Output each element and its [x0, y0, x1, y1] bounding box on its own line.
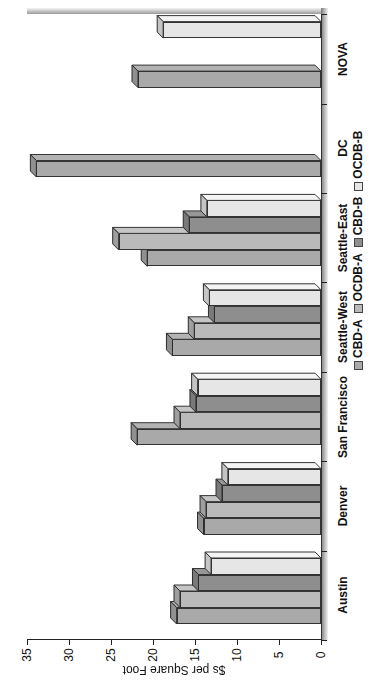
bar-ocdb-a-denver	[206, 502, 321, 519]
legend-item: CBD-A	[351, 319, 365, 370]
value-tick-label: 5	[272, 645, 286, 665]
category-label: DC	[335, 103, 351, 193]
bar-front-face	[119, 233, 321, 250]
bar-front-face	[207, 200, 321, 217]
bar-ocdb-b-austin	[211, 558, 321, 575]
value-tick-label: 30	[62, 645, 76, 665]
bar-cbd-a-nova	[138, 71, 321, 88]
category-label: NOVA	[335, 14, 351, 104]
bar-front-face	[228, 469, 321, 486]
bar-front-face	[196, 396, 321, 413]
value-tick-label: 35	[20, 645, 34, 665]
bar-ocdb-b-san-francisco	[198, 379, 321, 396]
legend-label: CBD-B	[351, 197, 365, 236]
legend-swatch-icon	[354, 238, 363, 247]
category-tick	[321, 104, 327, 105]
bar-front-face	[204, 518, 321, 535]
category-tick	[321, 372, 327, 373]
category-axis	[321, 14, 322, 641]
legend-label: OCDB-B	[351, 131, 365, 179]
category-label: Austin	[335, 550, 351, 640]
legend: CBD-AOCDB-ACBD-BOCDB-B	[350, 170, 366, 370]
bar-ocdb-b-seattle-east	[207, 200, 321, 217]
category-label: San Francisco	[335, 372, 351, 462]
category-label: Seattle-West	[335, 282, 351, 372]
category-label: Seattle-East	[335, 193, 351, 283]
legend-label: OCDB-A	[351, 253, 365, 301]
chart-area: 05101520253035 AustinDenverSan Francisco…	[0, 0, 378, 686]
bar-cbd-b-austin	[198, 575, 321, 592]
bar-front-face	[180, 591, 321, 608]
legend-label: CBD-A	[351, 319, 365, 358]
category-tick	[321, 640, 327, 641]
value-axis	[27, 639, 322, 640]
legend-item: OCDB-A	[351, 253, 365, 313]
bar-front-face	[177, 608, 321, 625]
category-tick	[321, 14, 327, 15]
bar-cbd-a-seattle-east	[147, 250, 321, 267]
bar-front-face	[209, 290, 321, 307]
bar-ocdb-b-denver	[228, 469, 321, 486]
bar-ocdb-b-seattle-west	[209, 290, 321, 307]
category-label: Denver	[335, 461, 351, 551]
value-tick-label: 0	[314, 645, 328, 665]
bar-front-face	[198, 379, 321, 396]
bar-front-face	[36, 161, 321, 178]
legend-swatch-icon	[354, 182, 363, 191]
bar-front-face	[206, 502, 321, 519]
bar-cbd-b-denver	[222, 485, 321, 502]
bar-front-face	[214, 306, 321, 323]
category-tick	[321, 282, 327, 283]
bar-front-face	[163, 22, 321, 39]
bar-cbd-a-san-francisco	[137, 429, 321, 446]
bar-front-face	[198, 575, 321, 592]
chart-back-wall	[27, 8, 322, 14]
bar-cbd-a-austin	[177, 608, 321, 625]
bar-ocdb-a-san-francisco	[180, 412, 321, 429]
bar-cbd-b-seattle-east	[189, 217, 321, 234]
legend-item: OCDB-B	[351, 131, 365, 191]
legend-swatch-icon	[354, 361, 363, 370]
legend-item: CBD-B	[351, 197, 365, 248]
bar-front-face	[137, 429, 321, 446]
bar-cbd-a-denver	[204, 518, 321, 535]
legend-swatch-icon	[354, 304, 363, 313]
bar-front-face	[189, 217, 321, 234]
bar-cbd-b-san-francisco	[196, 396, 321, 413]
bar-ocdb-b-nova	[163, 22, 321, 39]
category-tick	[321, 551, 327, 552]
bar-ocdb-a-austin	[180, 591, 321, 608]
bar-front-face	[222, 485, 321, 502]
bar-front-face	[172, 339, 321, 356]
bar-front-face	[147, 250, 321, 267]
bar-front-face	[211, 558, 321, 575]
bar-ocdb-a-seattle-west	[194, 323, 321, 340]
bar-front-face	[194, 323, 321, 340]
category-tick	[321, 461, 327, 462]
bar-cbd-a-dc	[36, 161, 321, 178]
bar-front-face	[180, 412, 321, 429]
bar-cbd-b-seattle-west	[214, 306, 321, 323]
bar-front-face	[138, 71, 321, 88]
value-axis-title: $s per Square Foot	[94, 662, 254, 678]
bar-ocdb-a-seattle-east	[119, 233, 321, 250]
bar-cbd-a-seattle-west	[172, 339, 321, 356]
category-tick	[321, 193, 327, 194]
